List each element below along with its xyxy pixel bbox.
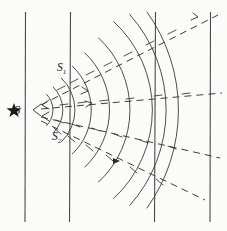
- arrowhead-back-icon: [42, 112, 49, 121]
- tick-mark: [124, 52, 132, 56]
- wavefront-arc-9: [147, 12, 179, 208]
- tick-mark: [100, 100, 108, 101]
- tick-mark: [60, 104, 68, 105]
- wavefront-arc-2: [53, 87, 63, 133]
- arrowhead-icon: [191, 13, 198, 20]
- arrowhead-back-icon: [33, 104, 41, 116]
- arrowhead-back-icon: [42, 100, 49, 109]
- ray-label-s1: S1: [57, 62, 66, 76]
- tick-mark: [70, 79, 78, 83]
- tick-mark: [126, 98, 134, 99]
- tick-mark: [106, 155, 113, 161]
- wavefront-arc-7: [114, 22, 153, 199]
- ray-middle: [41, 93, 222, 109]
- ray-lower-s2: [41, 117, 220, 158]
- tick-mark: [156, 179, 163, 185]
- ray-tick-marks: [54, 30, 190, 185]
- ray-arrowheads: [81, 13, 198, 164]
- vertical-line-1: [25, 12, 26, 222]
- tick-mark: [104, 62, 112, 66]
- diagram-canvas: [0, 0, 227, 231]
- tick-mark: [168, 30, 176, 34]
- source-label: S: [14, 104, 20, 117]
- tick-mark: [56, 120, 64, 123]
- wavefront-arc-8: [130, 15, 167, 206]
- vertical-reference-lines: [25, 12, 211, 222]
- tick-mark: [86, 71, 94, 75]
- wavefront-arcs: [47, 12, 179, 208]
- wave-propagation-diagram: S S1 S2: [0, 0, 227, 231]
- ray-lowest: [41, 121, 205, 200]
- tick-mark: [130, 167, 137, 173]
- wavefront-arc-5: [85, 53, 110, 167]
- tick-mark: [92, 128, 100, 131]
- tick-mark: [182, 93, 190, 94]
- vertical-line-3: [155, 12, 156, 222]
- arrowhead-icon: [81, 87, 88, 94]
- ray-label-s2: S2: [52, 131, 61, 145]
- tick-mark: [78, 102, 86, 103]
- vertical-line-2: [70, 12, 71, 222]
- tick-mark: [86, 145, 93, 151]
- ray-upper-s1: [41, 15, 218, 105]
- vertical-line-4: [210, 12, 211, 222]
- tick-mark: [57, 86, 65, 90]
